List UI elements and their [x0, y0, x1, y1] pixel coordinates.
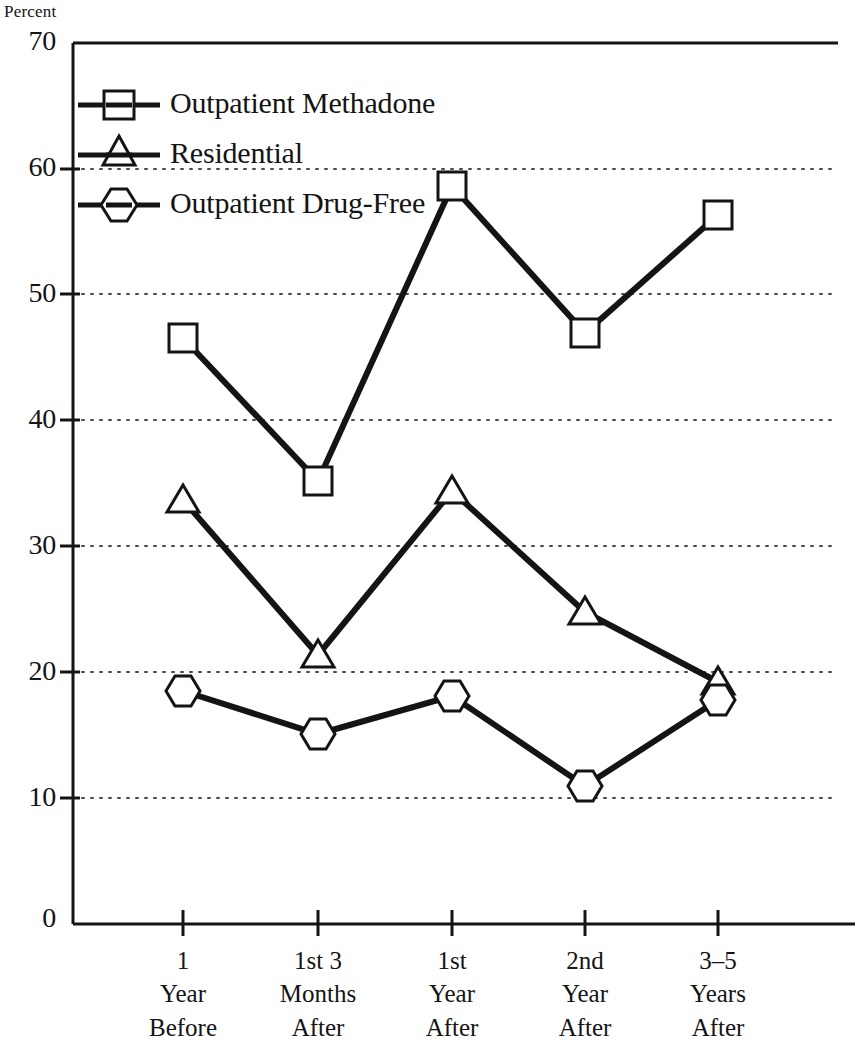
chart-container: Percent 70 60 50 40 30 20 10 0: [0, 0, 855, 1041]
legend-label: Outpatient Methadone: [170, 86, 435, 120]
data-point-marker: [701, 685, 735, 715]
x-tick-label-4: 2nd Year After: [510, 944, 660, 1041]
x-tick-line-2: Years: [643, 977, 793, 1010]
x-tick-line-1: 1st 3: [243, 944, 393, 977]
y-tick-marks: [60, 169, 80, 798]
legend-item-outpatient-methadone: Outpatient Methadone: [170, 86, 435, 120]
x-tick-label-5: 3–5 Years After: [643, 944, 793, 1041]
series-residential: [167, 476, 734, 694]
data-point-marker: [438, 172, 466, 200]
legend-label: Outpatient Drug-Free: [170, 186, 425, 220]
data-point-marker: [436, 476, 468, 503]
data-point-marker: [169, 324, 197, 352]
x-tick-line-1: 3–5: [643, 944, 793, 977]
x-tick-label-2: 1st 3 Months After: [243, 944, 393, 1041]
legend-item-outpatient-drug-free: Outpatient Drug-Free: [170, 186, 425, 220]
plot-svg: [0, 0, 855, 1041]
series-outpatient-drug-free: [166, 676, 735, 801]
series-outpatient-methadone: [169, 172, 732, 495]
data-point-marker: [435, 681, 469, 711]
data-point-marker: [704, 201, 732, 229]
x-tick-line-1: 1: [108, 944, 258, 977]
x-tick-label-1: 1 Year Before: [108, 944, 258, 1041]
legend-label: Residential: [170, 136, 303, 170]
x-tick-line-2: Year: [510, 977, 660, 1010]
x-tick-line-1: 1st: [377, 944, 527, 977]
data-point-marker: [166, 676, 200, 706]
x-tick-line-3: After: [377, 1011, 527, 1041]
data-point-marker: [571, 319, 599, 347]
x-tick-line-2: Year: [377, 977, 527, 1010]
legend-item-residential: Residential: [170, 136, 303, 170]
x-tick-line-2: Year: [108, 977, 258, 1010]
data-point-marker: [304, 467, 332, 495]
x-tick-label-3: 1st Year After: [377, 944, 527, 1041]
triangle-marker-icon: [103, 136, 135, 165]
x-tick-line-3: After: [643, 1011, 793, 1041]
legend-markers: [78, 91, 160, 221]
x-tick-line-3: After: [510, 1011, 660, 1041]
data-point-marker: [301, 719, 335, 749]
data-point-marker: [167, 485, 199, 512]
x-tick-line-1: 2nd: [510, 944, 660, 977]
x-tick-line-2: Months: [243, 977, 393, 1010]
data-point-marker: [568, 771, 602, 801]
x-tick-line-3: After: [243, 1011, 393, 1041]
x-tick-line-3: Before: [108, 1011, 258, 1041]
